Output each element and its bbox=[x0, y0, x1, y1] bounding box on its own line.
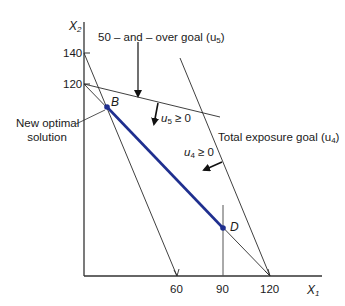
point-d-label: D bbox=[230, 221, 239, 233]
new-optimal-label: New optimal solution bbox=[16, 118, 78, 143]
u5-direction-arrow bbox=[154, 103, 158, 124]
x-axis-label: X1 bbox=[307, 284, 319, 298]
new-optimal-line-2: solution bbox=[16, 132, 78, 144]
new-optimal-pointer bbox=[76, 110, 105, 124]
goal-u5-label: 50 – and – over goal (u5) bbox=[98, 32, 225, 45]
point-b-label: B bbox=[111, 96, 119, 108]
point-b bbox=[104, 104, 110, 110]
tick-label-90: 90 bbox=[216, 284, 229, 296]
point-d bbox=[220, 225, 226, 231]
u4-direction-arrow bbox=[204, 162, 222, 170]
tick-label-140: 140 bbox=[63, 48, 82, 60]
y-axis-label: X2 bbox=[69, 20, 81, 34]
new-optimal-line-1: New optimal bbox=[16, 118, 78, 130]
tick-label-60: 60 bbox=[170, 284, 183, 296]
tick-label-120y: 120 bbox=[63, 79, 82, 91]
goal-u4-line bbox=[180, 58, 270, 276]
u5-constraint-label: u5 ≥ 0 bbox=[161, 113, 191, 126]
goal-u4-label: Total exposure goal (u4) bbox=[218, 132, 339, 145]
goal-programming-chart bbox=[0, 0, 345, 306]
u4-constraint-label: u4 ≥ 0 bbox=[184, 147, 214, 160]
tick-label-120x: 120 bbox=[260, 284, 279, 296]
goal-u5-line bbox=[84, 84, 220, 117]
